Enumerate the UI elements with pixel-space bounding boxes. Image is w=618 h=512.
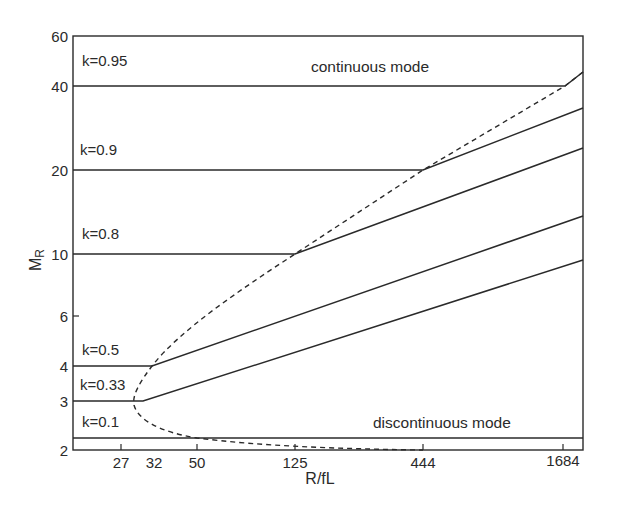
label-k-0.1: k=0.1 (82, 413, 119, 430)
y-axis-title: MR (27, 249, 47, 271)
y-tick-6: 6 (60, 308, 68, 325)
discontinuous-mode-label: discontinuous mode (373, 414, 511, 431)
label-k-0.8: k=0.8 (82, 225, 119, 242)
x-tick-32: 32 (146, 454, 163, 471)
y-tick-3: 3 (60, 393, 68, 410)
curve-k-0.9 (73, 108, 583, 170)
y-tick-60: 60 (51, 28, 68, 45)
y-tick-labels: 60 40 20 10 6 4 3 2 (51, 28, 68, 459)
chart: 60 40 20 10 6 4 3 2 MR 27 32 50 125 444 … (0, 0, 618, 512)
y-tick-40: 40 (51, 78, 68, 95)
label-k-0.33: k=0.33 (80, 376, 125, 393)
continuous-mode-label: continuous mode (311, 58, 429, 75)
svg-text:MR: MR (27, 249, 47, 271)
mode-boundary-curve (134, 72, 583, 450)
k-labels: k=0.95 k=0.9 k=0.8 k=0.5 k=0.33 k=0.1 (80, 52, 127, 430)
y-tick-10: 10 (51, 246, 68, 263)
x-axis-title: R/fL (305, 470, 334, 487)
x-tick-27: 27 (113, 454, 130, 471)
label-k-0.95: k=0.95 (82, 52, 127, 69)
y-title-main: M (27, 258, 44, 271)
y-title-sub: R (33, 249, 47, 258)
curve-k-0.8 (73, 148, 583, 254)
x-tick-125: 125 (282, 454, 307, 471)
y-tick-4: 4 (60, 358, 68, 375)
curve-k-0.5 (73, 216, 583, 366)
y-tick-20: 20 (51, 162, 68, 179)
x-axis (121, 444, 563, 450)
label-k-0.9: k=0.9 (80, 141, 117, 158)
k-curves (73, 72, 583, 438)
x-tick-50: 50 (189, 454, 206, 471)
x-tick-labels: 27 32 50 125 444 1684 (113, 452, 580, 471)
curve-k-0.33 (73, 260, 583, 401)
label-k-0.5: k=0.5 (82, 341, 119, 358)
x-tick-1684: 1684 (546, 452, 579, 469)
x-tick-444: 444 (410, 454, 435, 471)
y-tick-2: 2 (60, 442, 68, 459)
